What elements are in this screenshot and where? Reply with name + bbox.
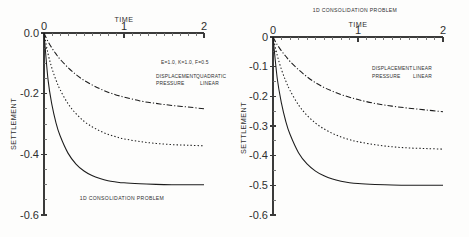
right-panel-caption: 1D CONSOLIDATION PROBLEM bbox=[313, 7, 397, 13]
settlement-curve-dotted bbox=[44, 33, 204, 146]
right-axes bbox=[270, 37, 443, 215]
left-curves bbox=[44, 33, 204, 185]
chart-panel-right: 1D CONSOLIDATION PROBLEM 012 0-0.1-0.2-0… bbox=[235, 0, 469, 237]
right-y-axis-title: SETTLEMENT bbox=[239, 102, 248, 154]
consolidation-figure: 012 0.0-0.2-0.4-0.6 TIME SETTLEMENT E=1.… bbox=[0, 0, 469, 237]
left-legend-displacement-order: QUADRATIC bbox=[196, 74, 227, 79]
right-ytick-labels: 0-0.1-0.2-0.3-0.4-0.5-0.6 bbox=[249, 31, 268, 221]
y-tick-label: -0.5 bbox=[249, 179, 268, 191]
right-legend-pressure-field: PRESSURE bbox=[372, 74, 401, 79]
y-tick-label: 0 bbox=[262, 31, 268, 43]
right-legend-pressure-order: LINEAR bbox=[413, 74, 432, 79]
y-tick-label: -0.4 bbox=[249, 149, 268, 161]
left-panel-caption: 1D CONSOLIDATION PROBLEM bbox=[80, 195, 164, 201]
y-tick-label: -0.6 bbox=[20, 209, 39, 221]
y-tick-label: -0.3 bbox=[249, 120, 268, 132]
right-legend-displacement-order: LINEAR bbox=[413, 66, 432, 71]
y-tick-label: -0.1 bbox=[249, 60, 268, 72]
right-curves bbox=[273, 37, 443, 185]
left-x-ticks bbox=[44, 33, 204, 38]
settlement-curve-solid bbox=[44, 33, 204, 185]
left-parameters-annotation: E=1.0, K=1.0, F=0.5 bbox=[161, 60, 209, 65]
right-x-ticks bbox=[273, 37, 443, 42]
left-y-axis-title: SETTLEMENT bbox=[9, 98, 18, 150]
y-tick-label: 0.0 bbox=[24, 27, 39, 39]
left-legend-pressure-order: LINEAR bbox=[200, 81, 219, 86]
settlement-curve-dotted bbox=[273, 37, 443, 149]
x-tick-label: 0 bbox=[41, 20, 47, 32]
left-ytick-labels: 0.0-0.2-0.4-0.6 bbox=[20, 27, 39, 221]
settlement-curve-dashdot bbox=[44, 33, 204, 109]
x-tick-label: 2 bbox=[440, 24, 446, 36]
settlement-curve-solid bbox=[273, 37, 443, 185]
left-x-axis-title: TIME bbox=[115, 15, 134, 24]
left-legend-displacement-field: DISPLACEMENT bbox=[156, 74, 196, 79]
y-tick-label: -0.4 bbox=[20, 148, 39, 160]
x-tick-label: 0 bbox=[270, 24, 276, 36]
y-tick-label: -0.6 bbox=[249, 209, 268, 221]
left-legend-pressure-field: PRESSURE bbox=[156, 81, 185, 86]
right-x-axis-title: TIME bbox=[349, 20, 368, 29]
y-tick-label: -0.2 bbox=[249, 90, 268, 102]
x-tick-label: 2 bbox=[201, 20, 207, 32]
right-legend-displacement-field: DISPLACEMENT bbox=[372, 66, 412, 71]
chart-panel-left: 012 0.0-0.2-0.4-0.6 TIME SETTLEMENT E=1.… bbox=[0, 0, 234, 237]
y-tick-label: -0.2 bbox=[20, 87, 39, 99]
